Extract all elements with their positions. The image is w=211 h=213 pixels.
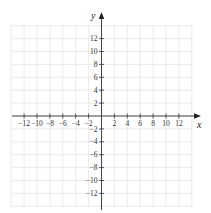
x-tick-label: 4 [125,119,129,128]
y-axis-arrow-icon [99,12,104,19]
x-tick-label: 8 [151,119,155,128]
y-tick-label: 2 [94,99,98,108]
x-tick-label: −10 [31,119,43,128]
y-tick-label: −4 [90,137,98,146]
y-tick-label: 4 [94,86,98,95]
coordinate-grid: −12−10−8−6−4−224681012 12108642−2−4−6−8−… [0,0,211,213]
y-tick-label: −8 [90,163,98,172]
x-axis-label: x [196,119,202,130]
x-tick-label: 6 [138,119,142,128]
x-tick-label: −6 [59,119,67,128]
x-tick-label: 2 [113,119,117,128]
x-tick-label: −8 [46,119,54,128]
y-tick-label: −12 [86,189,98,198]
x-axis-arrow-icon [194,113,201,118]
y-tick-label: −6 [90,150,98,159]
y-tick-label: 10 [90,47,98,56]
y-tick-label: 8 [94,60,98,69]
y-tick-label: 12 [90,34,98,43]
x-tick-label: −4 [72,119,80,128]
y-tick-label: −2 [90,125,98,134]
x-tick-label: 10 [162,119,170,128]
y-tick-label: −10 [86,176,98,185]
x-tick-label: 12 [175,119,183,128]
x-tick-label: −12 [18,119,30,128]
y-axis-label: y [90,10,96,21]
y-tick-label: 6 [94,73,98,82]
